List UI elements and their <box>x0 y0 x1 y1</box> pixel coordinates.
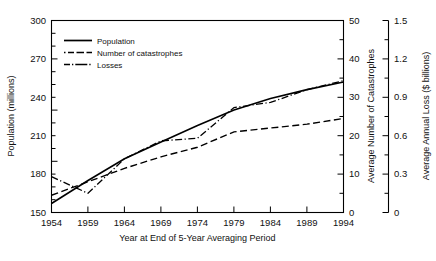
x-tick-label-1994: 1994 <box>333 217 354 228</box>
right-axis-1-title: Average Number of Catastrophes <box>366 49 376 183</box>
legend: Population Number of catastrophes Losses <box>64 37 182 70</box>
chart-figure: 150 180 210 240 270 Population (millions… <box>0 0 436 261</box>
x-tick-label-1974: 1974 <box>187 217 208 228</box>
legend-label-population: Population <box>97 37 135 46</box>
left-axis-title: Population (millions) <box>6 75 16 156</box>
right1-tick-label-40: 40 <box>349 53 360 64</box>
x-tick-label-1959: 1959 <box>77 217 98 228</box>
x-tick-label-1989: 1989 <box>296 217 317 228</box>
left-tick-label-180: 180 <box>30 168 46 179</box>
right1-tick-label-30: 30 <box>349 91 360 102</box>
left-tick-label-270: 270 <box>30 53 46 64</box>
right-axis-2-title: Average Annual Loss ($ billions) <box>421 52 431 180</box>
left-axis-ticks <box>52 21 58 213</box>
plot-frame <box>52 21 344 213</box>
right1-tick-label-0: 0 <box>349 207 354 218</box>
x-tick-label-1964: 1964 <box>114 217 135 228</box>
right2-tick-label-09: 0.9 <box>394 91 407 102</box>
chart-svg: 150 180 210 240 270 Population (millions… <box>0 0 436 261</box>
right-axis-2-ticks <box>383 21 389 213</box>
right2-tick-label-15: 1.5 <box>394 15 407 26</box>
right2-tick-label-12: 1.2 <box>394 53 407 64</box>
right2-tick-label-03: 0.3 <box>394 168 407 179</box>
x-axis-ticks <box>52 207 344 213</box>
right1-tick-label-20: 20 <box>349 130 360 141</box>
left-tick-label-210: 210 <box>30 130 46 141</box>
left-tick-label-240: 240 <box>30 92 46 103</box>
legend-label-losses: Losses <box>97 61 122 70</box>
right2-tick-label-0: 0 <box>394 207 399 218</box>
series-line-population <box>52 82 344 204</box>
x-tick-label-1969: 1969 <box>150 217 171 228</box>
x-axis-title: Year at End of 5-Year Averaging Period <box>119 233 275 243</box>
x-tick-label-1954: 1954 <box>41 217 62 228</box>
series-line-number-of-catastrophes <box>52 118 344 195</box>
x-tick-label-1979: 1979 <box>223 217 244 228</box>
right2-tick-label-06: 0.6 <box>394 130 407 141</box>
right1-tick-label-10: 10 <box>349 168 360 179</box>
right-axis-1-ticks <box>338 21 344 213</box>
series-group <box>52 81 344 204</box>
x-tick-label-1984: 1984 <box>260 217 281 228</box>
legend-label-number-of-catastrophes: Number of catastrophes <box>97 49 182 58</box>
left-tick-label-300: 300 <box>30 15 46 26</box>
right1-tick-label-50: 50 <box>349 15 360 26</box>
